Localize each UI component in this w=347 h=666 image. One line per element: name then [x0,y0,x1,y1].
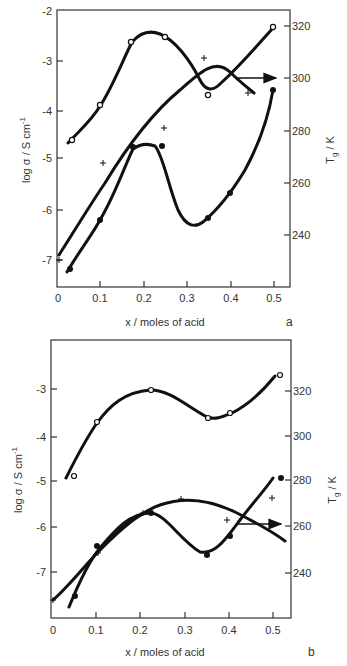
y-right-tick-label: 320 [293,385,311,397]
y-right-tick-label: 240 [293,567,311,579]
y-axis-right-b: 320 300 280 260 240 [285,385,311,579]
x-tick-label: 0.2 [136,292,151,304]
curve-open-circles-b [66,376,275,478]
plot-frame-b [51,340,291,618]
y-tick-label: -4 [36,431,46,443]
y-right-tick-label: 280 [292,125,310,137]
markers-plus-b [50,495,275,603]
y-tick-label: -3 [42,55,52,67]
y-axis-left-a: -2 -3 -4 -5 -6 -7 [42,5,63,266]
y-right-tick-label: 320 [292,20,310,32]
svg-text:Tg / K: Tg / K [324,135,339,163]
x-axis-title-b: x / moles of acid [125,646,204,658]
y-right-axis-title-b: Tg / K [326,475,341,503]
markers-filled-circles-b [72,475,284,599]
x-tick-label: 0.5 [265,624,280,636]
y-tick-label: -3 [36,383,46,395]
x-tick-label: 0 [55,292,61,304]
y-right-tick-label: 240 [292,229,310,241]
y-tick-label: -6 [36,521,46,533]
curve-open-circles-a [68,28,273,143]
x-tick-label: 0.5 [266,292,281,304]
y-axis-left-b: -3 -4 -5 -6 -7 [36,383,57,578]
panel-label-a: a [286,315,293,329]
y-tick-label: -4 [42,105,52,117]
x-axis-title-a: x / moles of acid [125,316,204,328]
y-axis-title-a: log σ / S cm-1 [18,117,32,183]
y-axis-title-b: log σ / S cm-1 [10,447,24,513]
markers-plus-a [56,55,251,263]
y-right-tick-label: 300 [293,430,311,442]
figure: -2 -3 -4 -5 -6 -7 320 300 280 260 240 [0,0,347,666]
x-tick-label: 0.2 [132,624,147,636]
y-tick-label: -6 [42,204,52,216]
y-tick-label: -5 [42,152,52,164]
x-axis-b: 0 0.1 0.2 0.3 0.4 0.5 [50,612,281,636]
chart-panel-a: -2 -3 -4 -5 -6 -7 320 300 280 260 240 [18,5,339,329]
svg-text:Tg / K: Tg / K [326,475,341,503]
curve-filled-circles-b-overlap [95,513,145,555]
x-tick-label: 0.4 [221,624,236,636]
x-tick-label: 0.1 [88,624,103,636]
markers-filled-circles-a [67,87,276,272]
x-tick-label: 0 [50,624,56,636]
y-tick-label: -2 [42,5,52,17]
curve-filled-circles-b [69,478,273,607]
panel-label-b: b [308,645,315,659]
svg-text:log σ / S cm-1: log σ / S cm-1 [10,447,24,513]
x-tick-label: 0.3 [179,292,194,304]
svg-text:log σ / S cm-1: log σ / S cm-1 [18,117,32,183]
y-tick-label: -5 [36,475,46,487]
y-axis-right-a: 320 300 280 260 240 [284,20,310,241]
x-tick-label: 0.4 [223,292,238,304]
x-axis-a: 0 0.1 0.2 0.3 0.4 0.5 [55,281,282,304]
y-tick-label: -7 [42,254,52,266]
y-tick-label: -7 [36,566,46,578]
markers-open-circles-b [72,373,283,479]
y-right-tick-label: 280 [293,474,311,486]
y-right-axis-title-a: Tg / K [324,135,339,163]
y-right-tick-label: 260 [293,520,311,532]
curve-tg-plus-a [59,66,254,255]
y-right-tick-label: 260 [292,177,310,189]
curve-filled-circles-a [67,90,273,272]
x-tick-label: 0.1 [92,292,107,304]
x-tick-label: 0.3 [177,624,192,636]
curve-tg-plus-b [53,500,285,600]
chart-panel-b: -3 -4 -5 -6 -7 320 300 280 260 240 0 0.1 [10,340,341,659]
y-right-tick-label: 300 [292,72,310,84]
